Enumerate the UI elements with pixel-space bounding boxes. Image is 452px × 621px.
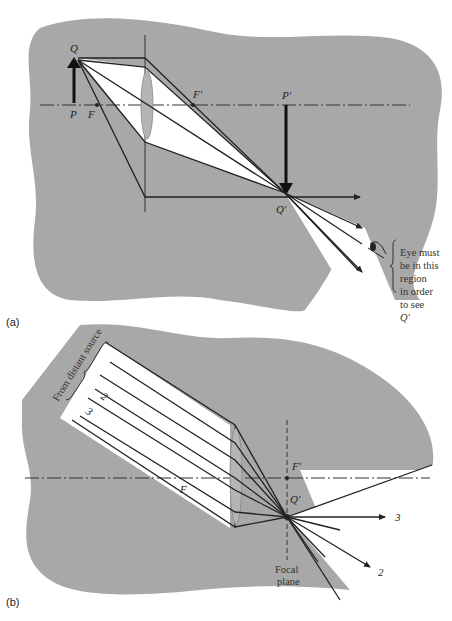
label-ray-3-out: 3 (394, 511, 401, 523)
label-q-prime-a: Q' (276, 203, 287, 215)
label-f-a: F (87, 108, 95, 120)
label-q-prime-b: Q' (290, 493, 301, 505)
image-point-dot-b (284, 514, 290, 520)
back-focus-dot-a (191, 103, 195, 107)
panel-a-label: (a) (6, 316, 19, 328)
label-p-prime: P' (281, 89, 292, 101)
optics-diagram: Q P F F' P' Q' Eye must be in this regio… (0, 0, 452, 621)
front-focus-dot-a (95, 103, 99, 107)
label-p: P (69, 108, 77, 120)
svg-text:to see: to see (400, 299, 425, 310)
label-q: Q (70, 42, 78, 54)
label-f-b: F (179, 483, 187, 495)
svg-text:region: region (400, 273, 428, 284)
back-focus-dot-b (285, 476, 289, 480)
label-f-prime-a: F' (192, 88, 203, 100)
svg-text:Eye must: Eye must (400, 247, 439, 258)
svg-text:in order: in order (400, 286, 433, 297)
panel-b-label: (b) (6, 596, 19, 608)
label-f-prime-b: F' (291, 460, 302, 472)
panel-a: Q P F F' P' Q' Eye must be in this regio… (6, 18, 442, 328)
svg-text:be in this: be in this (400, 260, 439, 271)
svg-text:Q': Q' (400, 312, 411, 323)
label-ray-2-out: 2 (378, 566, 384, 578)
focal-plane-label-2: plane (277, 576, 300, 587)
panel-b: F F' Q' 3 2 2 3 From distant source Foca… (6, 324, 452, 608)
focal-plane-label-1: Focal (275, 564, 298, 575)
